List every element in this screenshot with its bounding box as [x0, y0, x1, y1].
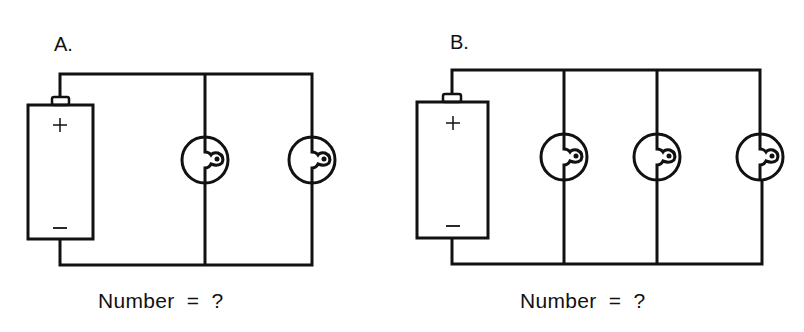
lightbulb-icon [289, 137, 335, 183]
lightbulb-icon [737, 134, 783, 180]
wire-a-bottom [60, 183, 312, 265]
lightbulb-icon [541, 134, 587, 180]
lightbulb-icon [634, 134, 680, 180]
battery-icon [417, 94, 488, 238]
circuit-b [417, 70, 783, 264]
circuit-diagram [0, 0, 804, 332]
wire-b-bottom [452, 180, 762, 264]
panel-b-caption: Number = ? [520, 289, 646, 313]
panel-b-label: B. [450, 31, 469, 54]
battery-icon [28, 97, 93, 239]
wire-b-top [452, 70, 760, 134]
wire-a-top [60, 74, 312, 137]
circuit-a [28, 74, 335, 265]
panel-a-label: A. [54, 33, 73, 56]
lightbulb-icon [182, 137, 228, 183]
panel-a-caption: Number = ? [98, 289, 224, 313]
